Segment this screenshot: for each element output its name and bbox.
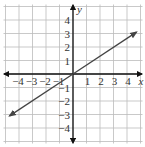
x-tick-label: −2 [39, 75, 51, 87]
x-tick-label: 4 [125, 75, 131, 87]
y-tick-label: 2 [65, 41, 71, 53]
y-tick-label: 1 [65, 55, 71, 67]
y-axis-label: y [76, 3, 82, 15]
y-tick-label: −2 [58, 95, 70, 107]
x-tick-label: −4 [12, 75, 24, 87]
x-axis-label: x [138, 75, 144, 87]
y-tick-label: 4 [65, 14, 71, 26]
y-tick-label: −3 [58, 109, 70, 121]
x-tick-label: 1 [85, 75, 91, 87]
y-tick-label: 3 [65, 28, 71, 40]
x-tick-label: −3 [26, 75, 38, 87]
y-tick-label: −4 [58, 122, 70, 134]
coordinate-plane: −4−3−2−112344321−1−2−3−4xy [0, 0, 145, 147]
x-tick-label: 3 [112, 75, 118, 87]
x-tick-label: 2 [98, 75, 104, 87]
